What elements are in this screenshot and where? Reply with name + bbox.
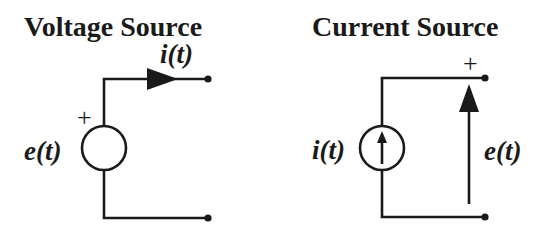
bottom-wire [104, 170, 208, 218]
voltage-source-symbol [82, 126, 126, 170]
terminal-dot-top [204, 75, 211, 82]
current-label: i(t) [312, 135, 345, 165]
circuit-diagram: Voltage Source i(t) + e(t) Current Sourc… [0, 0, 553, 230]
voltage-label: e(t) [484, 136, 521, 166]
terminal-dot-bottom [204, 214, 211, 221]
current-source-diagram: Current Source + i(t) e(t) [312, 11, 521, 221]
terminal-dot-bottom [481, 213, 488, 220]
voltage-label: e(t) [24, 136, 61, 166]
voltage-source-title: Voltage Source [24, 11, 202, 42]
current-label: i(t) [160, 39, 193, 69]
plus-sign: + [77, 103, 92, 132]
current-arrow-icon [147, 68, 178, 90]
arrow-up-icon [377, 131, 387, 143]
voltage-source-diagram: Voltage Source i(t) + e(t) [24, 11, 212, 222]
plus-sign: + [463, 49, 478, 78]
terminal-dot-top [481, 74, 488, 81]
voltage-arrow-icon [459, 84, 479, 112]
current-source-title: Current Source [312, 11, 498, 42]
